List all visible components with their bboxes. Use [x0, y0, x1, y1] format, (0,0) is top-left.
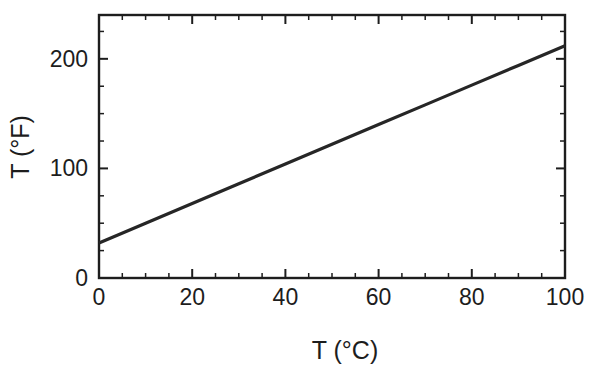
y-tick-label: 100 — [50, 155, 88, 181]
data-series-layer — [99, 46, 565, 243]
line-chart: 0204060801000100200 T (°C) T (°F) — [0, 0, 592, 369]
y-tick-label: 0 — [75, 265, 88, 291]
x-tick-label: 20 — [179, 284, 205, 310]
x-tick-label: 60 — [366, 284, 392, 310]
y-tick-label: 200 — [50, 46, 88, 72]
x-tick-label: 40 — [273, 284, 299, 310]
tick-labels-layer: 0204060801000100200 — [50, 46, 585, 310]
x-tick-label: 80 — [459, 284, 485, 310]
tick-marks-layer — [99, 15, 565, 278]
x-axis-title: T (°C) — [312, 336, 378, 364]
axes-frame — [99, 15, 565, 278]
x-tick-label: 100 — [546, 284, 584, 310]
y-axis-title: T (°F) — [6, 115, 34, 179]
data-series-line — [99, 46, 565, 243]
plot-frame-box — [99, 15, 565, 278]
x-tick-label: 0 — [93, 284, 106, 310]
chart-figure: 0204060801000100200 T (°C) T (°F) — [0, 0, 592, 369]
